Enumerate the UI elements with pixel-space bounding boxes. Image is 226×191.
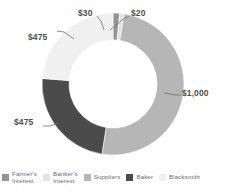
legend-swatch-icon xyxy=(126,174,133,181)
donut-chart: $30 $20 $475 $475 $1,000 Farmer's Intere… xyxy=(0,0,226,191)
slice-value-label-farmers-interest: $30 xyxy=(78,8,92,18)
donut-plot-area: $30 $20 $475 $475 $1,000 xyxy=(0,0,226,162)
donut-svg xyxy=(0,0,226,162)
legend-item-label: Farmer's Interest xyxy=(12,170,37,185)
legend-item-baker[interactable]: Baker xyxy=(126,173,153,181)
legend-swatch-icon xyxy=(43,174,50,181)
legend-item-label: Baker xyxy=(136,173,153,181)
legend-item-banker-s-interest[interactable]: Banker's Interest xyxy=(43,170,78,185)
legend-item-blacksmith[interactable]: Blacksmith xyxy=(159,173,200,181)
slice-value-label-blacksmith: $475 xyxy=(28,32,47,42)
legend-item-label: Suppliers xyxy=(94,173,121,181)
slice-value-label-suppliers: $1,000 xyxy=(182,88,209,98)
slice-value-label-baker: $475 xyxy=(14,117,33,127)
donut-slice-blacksmith[interactable] xyxy=(42,13,113,81)
legend-item-suppliers[interactable]: Suppliers xyxy=(84,173,121,181)
chart-legend: Farmer's InterestBanker's InterestSuppli… xyxy=(0,163,226,191)
legend-swatch-icon xyxy=(84,174,91,181)
slice-value-label-bankers-interest: $20 xyxy=(131,8,145,18)
legend-item-label: Banker's Interest xyxy=(53,170,78,185)
donut-slice-baker[interactable] xyxy=(42,78,106,154)
legend-swatch-icon xyxy=(2,174,9,181)
legend-item-label: Blacksmith xyxy=(169,173,200,181)
donut-slices xyxy=(42,13,184,155)
legend-item-farmer-s-interest[interactable]: Farmer's Interest xyxy=(2,170,37,185)
legend-swatch-icon xyxy=(159,174,166,181)
